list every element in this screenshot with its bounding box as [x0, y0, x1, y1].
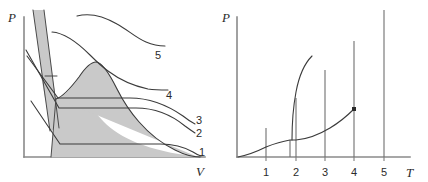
- pt-tick-label-1: 1: [263, 166, 269, 178]
- pt-critical-point-marker: [352, 107, 356, 111]
- pt-tick-label-2: 2: [293, 166, 299, 178]
- pv-isotherm-5-curve: [77, 15, 165, 46]
- pv-x-axis-label: V: [196, 164, 206, 179]
- pt-diagram-svg: P T 1 2 3 4 5: [214, 0, 428, 182]
- figure-root: P V 5 4 3 2 1: [0, 0, 428, 182]
- pv-isotherm-label-1: 1: [199, 146, 205, 158]
- pt-tick-label-4: 4: [351, 166, 357, 178]
- pt-x-axis-label: T: [406, 165, 414, 180]
- pt-fusion-curve: [292, 56, 312, 140]
- pt-tick-label-3: 3: [322, 166, 328, 178]
- pt-tick-label-5: 5: [381, 166, 387, 178]
- pv-shaded-regions: [33, 10, 200, 157]
- pv-isotherm-label-4: 4: [166, 89, 172, 101]
- pv-diagram-panel: P V 5 4 3 2 1: [0, 0, 214, 182]
- pv-diagram-svg: P V 5 4 3 2 1: [0, 0, 214, 182]
- pv-y-axis-label: P: [7, 10, 16, 25]
- pv-isotherm-label-3: 3: [196, 114, 202, 126]
- pv-isotherm-label-5: 5: [155, 49, 161, 61]
- pt-y-axis-label: P: [221, 10, 230, 25]
- pv-isotherm-label-2: 2: [196, 127, 202, 139]
- pt-diagram-panel: P T 1 2 3 4 5: [214, 0, 428, 182]
- pt-vertical-lines: [266, 10, 384, 157]
